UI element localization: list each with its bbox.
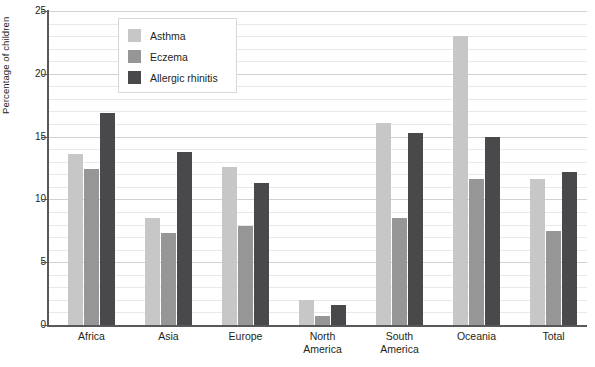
bar [177,152,192,325]
bar [562,172,577,325]
legend-label: Asthma [150,30,186,42]
bar [254,183,269,325]
legend-swatch [128,71,141,84]
bar [408,133,423,325]
bar [315,316,330,325]
bar-group [299,11,346,325]
x-tick-label: Europe [206,330,286,343]
legend-item: Allergic rhinitis [128,69,218,86]
bar-group [376,11,423,325]
bar [546,231,561,325]
bar [530,179,545,325]
bar-group [453,11,500,325]
x-axis-line [47,325,587,327]
bar [392,218,407,325]
y-axis-line [47,10,49,327]
legend: AsthmaEczemaAllergic rhinitis [118,18,237,93]
bar-chart: Percentage of children 0510152025 Africa… [0,0,595,367]
legend-swatch [128,29,141,42]
legend-label: Allergic rhinitis [150,72,218,84]
bar [469,179,484,325]
bar [161,233,176,325]
x-tick-label: SouthAmerica [360,330,440,355]
legend-item: Asthma [128,27,186,44]
bar [68,154,83,325]
y-axis-ticks: 0510152025 [0,0,46,367]
bar [145,218,160,325]
bar [299,300,314,325]
x-tick-label: NorthAmerica [283,330,363,355]
bar [100,113,115,325]
bar [238,226,253,325]
bar [331,305,346,325]
legend-swatch [128,50,141,63]
x-tick-label: Africa [52,330,132,343]
legend-item: Eczema [128,48,188,65]
bar [485,137,500,325]
x-tick-label: Oceania [437,330,517,343]
x-tick-label: Asia [129,330,209,343]
x-tick-label: Total [514,330,594,343]
bar [453,36,468,325]
legend-label: Eczema [150,51,188,63]
bar [84,169,99,325]
bar-group [68,11,115,325]
bar [376,123,391,325]
bar [222,167,237,325]
bar-group [530,11,577,325]
